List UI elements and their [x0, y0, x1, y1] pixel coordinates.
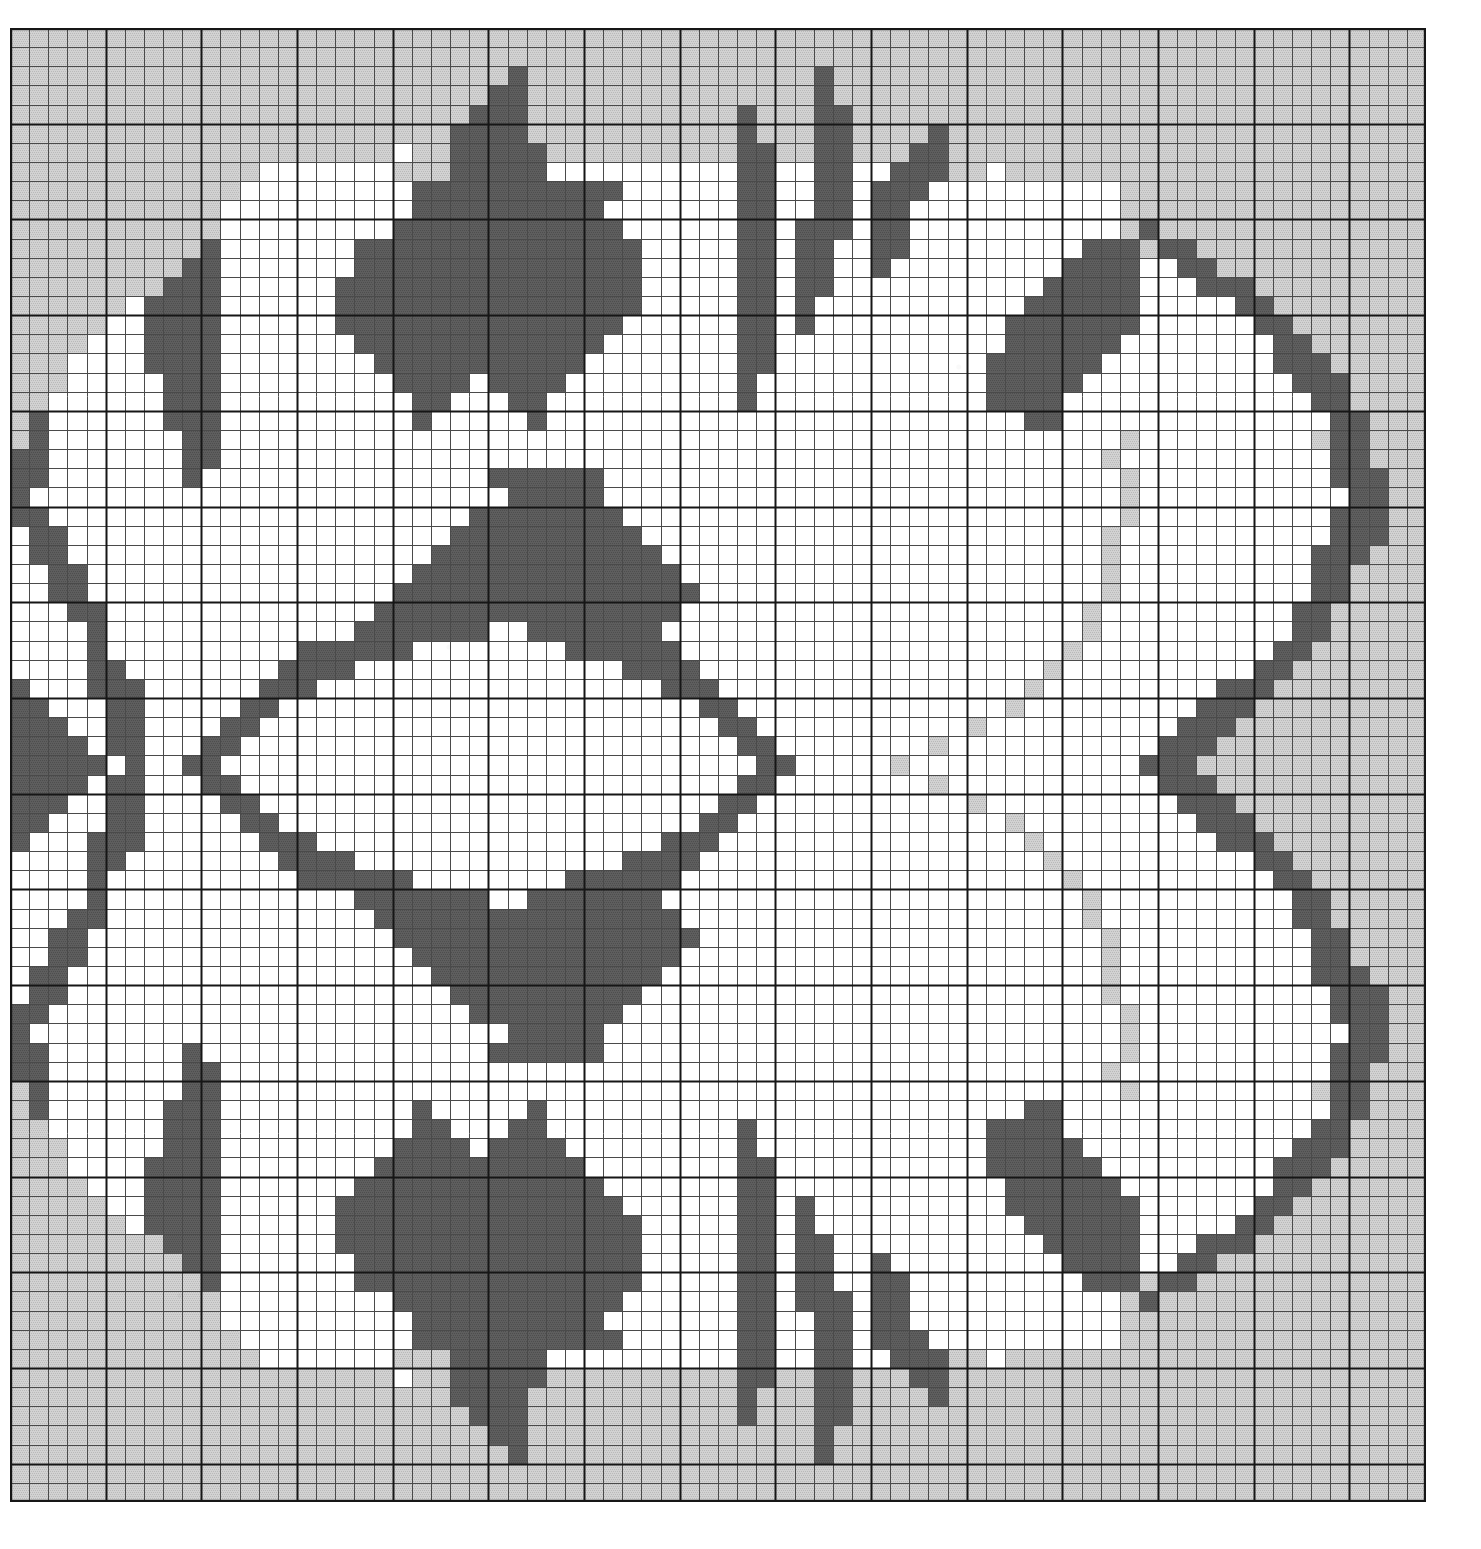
pattern-chart: [10, 28, 1426, 1502]
pattern-grid-canvas: [10, 28, 1426, 1502]
chart-page: Cross-stitch pattern chart Gridded count…: [0, 0, 1481, 1549]
